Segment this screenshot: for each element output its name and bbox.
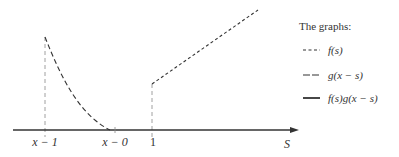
legend: The graphs: f(s) g(x − s) f(s)g(x − s) bbox=[299, 20, 378, 105]
axis-arrowhead-icon bbox=[290, 127, 299, 133]
tick-label-x-minus-0: x − 0 bbox=[101, 135, 127, 149]
axis-label-s: S bbox=[284, 137, 290, 151]
legend-label-g: g(x − s) bbox=[328, 69, 363, 82]
legend-title: The graphs: bbox=[299, 20, 351, 32]
legend-label-fg: f(s)g(x − s) bbox=[328, 92, 378, 105]
tick-label-x-minus-1: x − 1 bbox=[31, 135, 57, 149]
g-curve bbox=[45, 37, 110, 130]
legend-label-f: f(s) bbox=[328, 44, 343, 57]
convolution-diagram: x − 1 x − 0 1 S The graphs: f(s) g(x − s… bbox=[0, 0, 399, 157]
f-line bbox=[152, 10, 258, 84]
tick-label-1: 1 bbox=[150, 135, 156, 149]
